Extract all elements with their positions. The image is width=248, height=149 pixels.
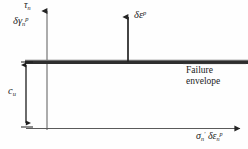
- failure-envelope-figure: τn δγnp δεp cu Failure envelope σn′ δεnp: [0, 0, 248, 149]
- undrained-shear-strength-label: cu: [8, 85, 16, 96]
- normal-stress-axis-label: σn′ δεnp: [196, 131, 223, 142]
- failure-envelope-caption-line1: Failure: [186, 65, 220, 76]
- plastic-strain-increment-label: δεp: [134, 9, 146, 20]
- failure-envelope-caption-line2: envelope: [186, 76, 220, 87]
- shear-stress-axis-label: τn: [24, 0, 31, 11]
- failure-envelope-caption: Failure envelope: [186, 65, 220, 86]
- plastic-shear-strain-label: δγnp: [13, 15, 29, 26]
